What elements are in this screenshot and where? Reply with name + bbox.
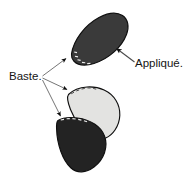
applique-leader-arrow	[117, 49, 135, 63]
top-dark-petal-body	[71, 13, 128, 65]
baste-label: Baste.	[9, 70, 42, 82]
top-dark-petal	[71, 13, 128, 65]
baste-leader-arrow-top	[43, 59, 67, 77]
diagram-canvas: Appliqué. Baste.	[0, 0, 188, 187]
applique-label: Appliqué.	[135, 57, 183, 69]
baste-callout: Baste.	[9, 59, 67, 117]
applique-basting-diagram: Appliqué. Baste.	[0, 0, 188, 187]
applique-callout: Appliqué.	[117, 49, 183, 69]
